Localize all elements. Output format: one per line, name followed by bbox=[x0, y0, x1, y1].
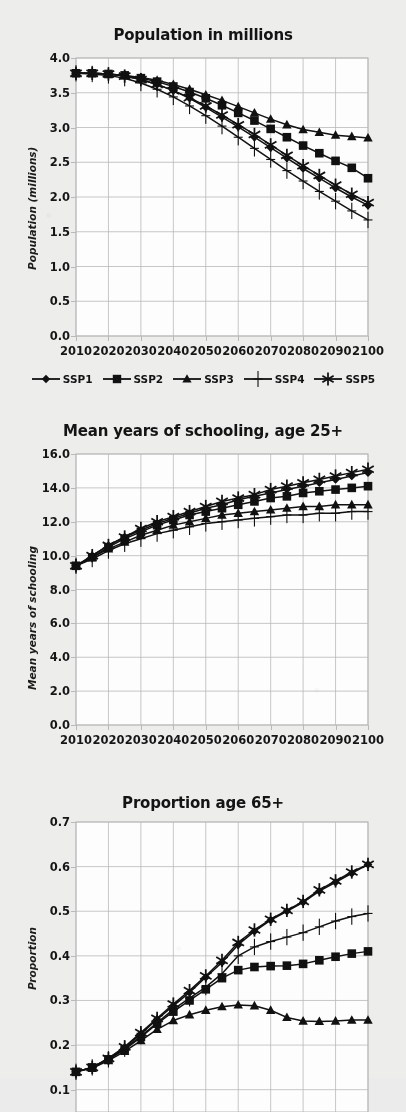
x-tick-label: 2040 bbox=[157, 733, 189, 747]
y-tick-label: 3.5 bbox=[28, 86, 70, 100]
x-tick-mark bbox=[76, 336, 77, 341]
y-tick-mark bbox=[71, 301, 76, 302]
series-marker-ssp2 bbox=[266, 962, 275, 971]
x-tick-mark bbox=[336, 725, 337, 730]
x-tick-label: 2100 bbox=[352, 344, 384, 358]
y-tick-label: 4.0 bbox=[28, 650, 70, 664]
x-tick-mark bbox=[173, 336, 174, 341]
y-tick-mark bbox=[71, 58, 76, 59]
plot-area-proportion: 0.10.20.30.40.50.60.7 bbox=[76, 822, 368, 1112]
x-tick-mark bbox=[336, 336, 337, 341]
y-tick-label: 0.5 bbox=[28, 904, 70, 918]
y-tick-label: 2.0 bbox=[28, 684, 70, 698]
x-tick-mark bbox=[173, 725, 174, 730]
legend-item-ssp2[interactable]: SSP2 bbox=[102, 371, 164, 387]
chart-svg bbox=[76, 454, 368, 725]
chart-title-proportion: Proportion age 65+ bbox=[0, 794, 406, 812]
y-tick-label: 0.0 bbox=[28, 718, 70, 732]
y-tick-mark bbox=[71, 691, 76, 692]
y-tick-mark bbox=[71, 911, 76, 912]
series-marker-ssp2 bbox=[250, 116, 259, 125]
y-tick-mark bbox=[71, 488, 76, 489]
series-marker-ssp2 bbox=[299, 960, 308, 969]
series-marker-ssp2 bbox=[331, 952, 340, 961]
series-marker-ssp2 bbox=[299, 141, 308, 150]
chart-panel-proportion: Proportion age 65+ Proportion 0.10.20.30… bbox=[0, 755, 406, 1078]
legend-marker-square-icon bbox=[102, 371, 132, 387]
x-tick-mark bbox=[368, 725, 369, 730]
legend-label: SSP3 bbox=[204, 373, 234, 385]
legend-item-ssp5[interactable]: SSP5 bbox=[313, 371, 375, 387]
x-tick-label: 2060 bbox=[222, 344, 254, 358]
y-tick-mark bbox=[71, 93, 76, 94]
y-tick-mark bbox=[71, 556, 76, 557]
legend-label: SSP2 bbox=[134, 373, 164, 385]
x-tick-label: 2010 bbox=[60, 733, 92, 747]
legend-marker-asterisk-icon bbox=[313, 371, 343, 387]
x-tick-label: 2020 bbox=[92, 733, 124, 747]
legend-marker-plus-icon bbox=[243, 371, 273, 387]
x-tick-mark bbox=[206, 725, 207, 730]
series-marker-ssp2 bbox=[299, 489, 308, 498]
y-tick-label: 0.7 bbox=[28, 815, 70, 829]
legend-item-ssp3[interactable]: SSP3 bbox=[172, 371, 234, 387]
x-tick-mark bbox=[206, 336, 207, 341]
legend-marker-triangle-icon bbox=[172, 371, 202, 387]
x-tick-mark bbox=[303, 336, 304, 341]
series-marker-ssp2 bbox=[347, 164, 356, 173]
y-tick-label: 8.0 bbox=[28, 583, 70, 597]
x-tick-label: 2020 bbox=[92, 344, 124, 358]
series-marker-ssp2 bbox=[364, 947, 373, 956]
y-tick-label: 16.0 bbox=[28, 447, 70, 461]
legend-item-ssp4[interactable]: SSP4 bbox=[243, 371, 305, 387]
chart-svg bbox=[76, 822, 368, 1112]
x-tick-mark bbox=[271, 725, 272, 730]
x-tick-mark bbox=[108, 725, 109, 730]
series-marker-ssp2 bbox=[250, 963, 259, 972]
y-tick-mark bbox=[71, 232, 76, 233]
x-tick-label: 2010 bbox=[60, 344, 92, 358]
y-tick-mark bbox=[71, 956, 76, 957]
legend-label: SSP5 bbox=[345, 373, 375, 385]
y-tick-label: 14.0 bbox=[28, 481, 70, 495]
legend-item-ssp1[interactable]: SSP1 bbox=[31, 371, 93, 387]
chart-panel-schooling: Mean years of schooling, age 25+ Mean ye… bbox=[0, 400, 406, 755]
x-tick-mark bbox=[108, 336, 109, 341]
y-tick-mark bbox=[71, 1090, 76, 1091]
series-marker-ssp2 bbox=[364, 174, 373, 183]
series-marker-ssp2 bbox=[283, 133, 292, 142]
x-tick-label: 2090 bbox=[320, 344, 352, 358]
y-tick-mark bbox=[71, 867, 76, 868]
x-tick-label: 2070 bbox=[255, 344, 287, 358]
y-tick-label: 0.1 bbox=[28, 1083, 70, 1097]
chart-title-schooling: Mean years of schooling, age 25+ bbox=[0, 422, 406, 440]
chart-legend: SSP1SSP2SSP3SSP4SSP5 bbox=[0, 371, 406, 387]
y-tick-mark bbox=[71, 1000, 76, 1001]
y-tick-label: 0.0 bbox=[28, 329, 70, 343]
series-marker-ssp2 bbox=[234, 966, 243, 975]
x-tick-label: 2050 bbox=[190, 344, 222, 358]
y-tick-mark bbox=[71, 197, 76, 198]
plot-area-schooling: 0.02.04.06.08.010.012.014.016.0201020202… bbox=[76, 454, 368, 725]
y-tick-mark bbox=[71, 454, 76, 455]
y-tick-label: 0.5 bbox=[28, 294, 70, 308]
y-tick-label: 4.0 bbox=[28, 51, 70, 65]
series-marker-ssp2 bbox=[315, 487, 324, 496]
x-tick-mark bbox=[238, 725, 239, 730]
x-tick-mark bbox=[238, 336, 239, 341]
series-marker-ssp2 bbox=[283, 961, 292, 970]
x-tick-label: 2080 bbox=[287, 344, 319, 358]
series-marker-ssp2 bbox=[364, 482, 373, 491]
series-marker-ssp2 bbox=[347, 484, 356, 493]
y-tick-label: 10.0 bbox=[28, 549, 70, 563]
series-marker-ssp2 bbox=[331, 485, 340, 494]
y-tick-label: 1.0 bbox=[28, 260, 70, 274]
x-tick-label: 2050 bbox=[190, 733, 222, 747]
x-tick-mark bbox=[271, 336, 272, 341]
y-tick-mark bbox=[71, 590, 76, 591]
y-tick-mark bbox=[71, 162, 76, 163]
x-tick-mark bbox=[76, 725, 77, 730]
y-tick-label: 0.2 bbox=[28, 1038, 70, 1052]
y-tick-mark bbox=[71, 822, 76, 823]
